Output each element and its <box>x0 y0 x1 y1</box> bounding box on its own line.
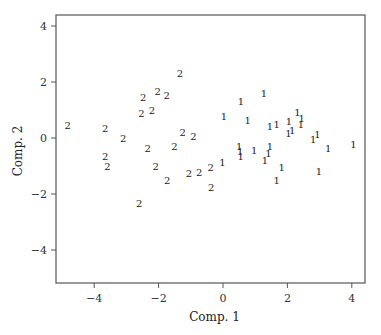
data-point-group-2: 2 <box>177 68 183 79</box>
y-tick-label: 0 <box>40 132 47 145</box>
data-point-group-1: 1 <box>289 125 295 136</box>
data-point-group-1: 1 <box>350 139 356 150</box>
data-point-group-1: 1 <box>219 157 225 168</box>
x-tick-label: 0 <box>220 292 227 305</box>
y-tick-label: 4 <box>40 20 47 33</box>
x-tick-label: −4 <box>86 292 102 305</box>
y-tick-label: −4 <box>31 244 47 257</box>
data-point-group-1: 1 <box>267 121 273 132</box>
data-point-group-2: 2 <box>104 161 110 172</box>
y-axis: −4−2024 <box>31 20 56 257</box>
data-point-group-2: 2 <box>120 133 126 144</box>
data-point-group-1: 1 <box>325 143 331 154</box>
data-point-group-2: 2 <box>180 127 186 138</box>
plot-frame <box>56 15 365 283</box>
data-point-group-2: 2 <box>186 168 192 179</box>
data-point-group-1: 1 <box>316 166 322 177</box>
data-point-group-1: 1 <box>221 111 227 122</box>
data-points: 1111111111111111111111111112222222222222… <box>65 68 357 208</box>
data-point-group-2: 2 <box>163 90 169 101</box>
y-tick-label: −2 <box>31 188 47 201</box>
data-point-group-1: 1 <box>314 129 320 140</box>
data-point-group-2: 2 <box>153 161 159 172</box>
data-point-group-1: 1 <box>238 96 244 107</box>
data-point-group-1: 1 <box>245 115 251 126</box>
data-point-group-1: 1 <box>238 151 244 162</box>
data-point-group-1: 1 <box>261 88 267 99</box>
data-point-group-1: 1 <box>298 119 304 130</box>
data-point-group-1: 1 <box>278 162 284 173</box>
data-point-group-2: 2 <box>154 86 160 97</box>
data-point-group-2: 2 <box>208 182 214 193</box>
x-tick-label: −2 <box>150 292 166 305</box>
data-point-group-2: 2 <box>208 162 214 173</box>
data-point-group-2: 2 <box>190 131 196 142</box>
data-point-group-2: 2 <box>164 175 170 186</box>
y-axis-title: Comp. 2 <box>11 126 25 177</box>
data-point-group-2: 2 <box>196 167 202 178</box>
y-tick-label: 2 <box>40 76 47 89</box>
data-point-group-2: 2 <box>171 141 177 152</box>
x-tick-label: 2 <box>284 292 291 305</box>
x-axis: −4−2024 <box>86 283 355 305</box>
data-point-group-1: 1 <box>251 145 257 156</box>
data-point-group-2: 2 <box>144 143 150 154</box>
data-point-group-1: 1 <box>274 175 280 186</box>
data-point-group-1: 1 <box>262 155 268 166</box>
data-point-group-2: 2 <box>65 120 71 131</box>
data-point-group-2: 2 <box>149 105 155 116</box>
x-tick-label: 4 <box>348 292 355 305</box>
data-point-group-1: 1 <box>274 119 280 130</box>
data-point-group-2: 2 <box>140 92 146 103</box>
x-axis-title: Comp. 1 <box>189 310 240 324</box>
data-point-group-2: 2 <box>138 108 144 119</box>
data-point-group-2: 2 <box>102 123 108 134</box>
data-point-group-2: 2 <box>136 198 142 209</box>
scatter-chart: −4−2024 −4−2024 111111111111111111111111… <box>0 0 381 335</box>
